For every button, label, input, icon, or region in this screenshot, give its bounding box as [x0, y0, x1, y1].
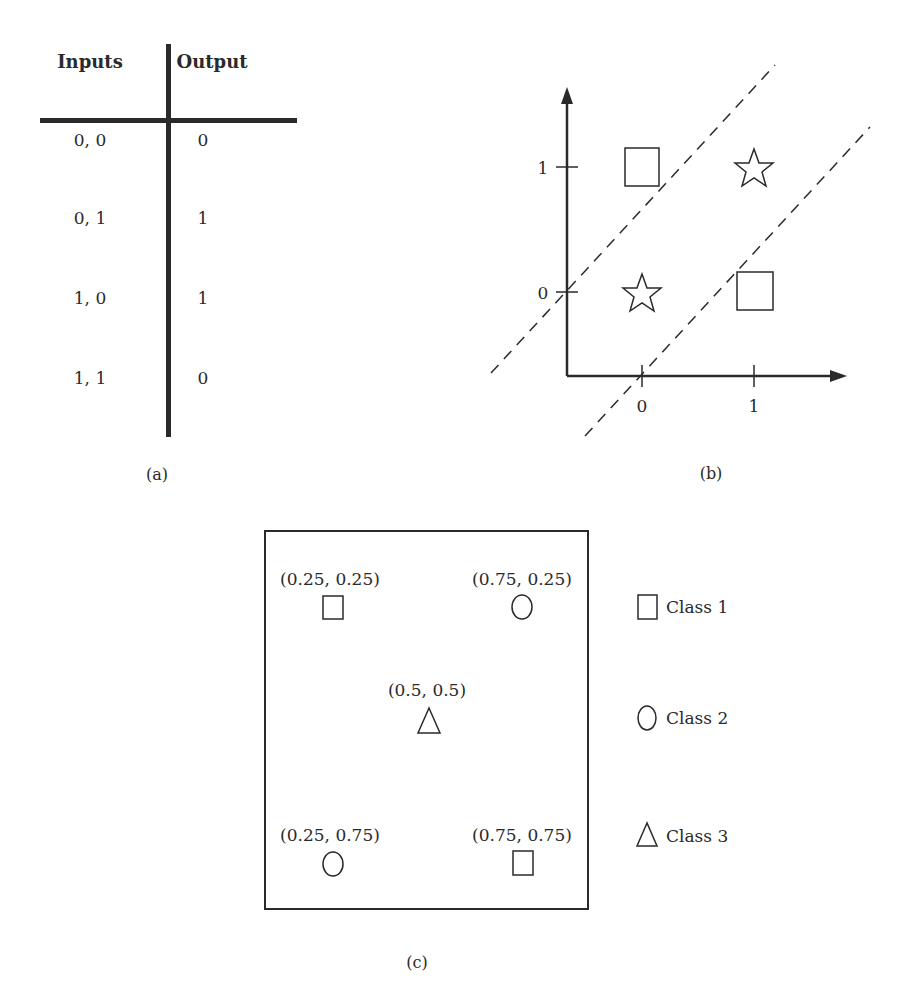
panel-c-graphics: [0, 0, 905, 1000]
legend-circle-icon: [638, 706, 656, 730]
legend-triangle-icon: [637, 823, 657, 846]
square-marker-icon: [513, 851, 533, 875]
legend-label-class-3: Class 3: [666, 828, 728, 845]
triangle-marker-icon: [418, 708, 440, 733]
legend-label-class-2: Class 2: [666, 710, 728, 727]
circle-marker-icon: [512, 595, 532, 619]
panel-c-caption: (c): [406, 955, 427, 971]
legend-square-icon: [638, 595, 657, 619]
circle-marker-icon: [323, 852, 343, 876]
square-marker-icon: [323, 596, 343, 619]
legend-label-class-1: Class 1: [666, 599, 728, 616]
